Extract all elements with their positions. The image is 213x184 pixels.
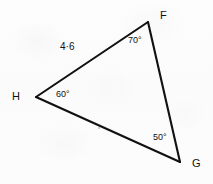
triangle-drawing bbox=[0, 0, 213, 184]
side-length-label-hf: 4·6 bbox=[60, 42, 74, 52]
angle-label-h: 60° bbox=[56, 90, 70, 99]
vertex-label-h: H bbox=[12, 91, 20, 102]
vertex-label-g: G bbox=[192, 158, 201, 169]
angle-label-f: 70° bbox=[128, 36, 142, 45]
stray-ink-speck bbox=[98, 127, 100, 129]
angle-label-g: 50° bbox=[153, 133, 167, 142]
triangle-figure: F H G 70° 60° 50° 4·6 bbox=[0, 0, 213, 184]
side-h-to-f bbox=[36, 22, 148, 97]
side-h-to-g bbox=[36, 97, 180, 162]
vertex-label-f: F bbox=[160, 10, 167, 21]
